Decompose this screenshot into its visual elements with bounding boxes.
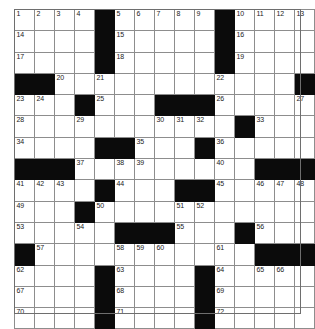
letter-cell[interactable] — [195, 244, 215, 265]
letter-cell[interactable]: 54 — [75, 222, 95, 243]
letter-cell[interactable] — [35, 31, 55, 52]
letter-cell[interactable] — [275, 286, 295, 307]
letter-cell[interactable]: 1 — [15, 10, 35, 31]
letter-cell[interactable] — [35, 286, 55, 307]
letter-cell[interactable]: 22 — [215, 73, 235, 94]
letter-cell[interactable]: 5 — [115, 10, 135, 31]
letter-cell[interactable] — [35, 52, 55, 73]
letter-cell[interactable] — [215, 222, 235, 243]
letter-cell[interactable]: 39 — [135, 159, 155, 180]
letter-cell[interactable]: 37 — [75, 159, 95, 180]
letter-cell[interactable] — [155, 137, 175, 158]
letter-cell[interactable] — [235, 201, 255, 222]
letter-cell[interactable] — [175, 286, 195, 307]
letter-cell[interactable] — [295, 265, 315, 286]
letter-cell[interactable]: 45 — [215, 180, 235, 201]
letter-cell[interactable]: 62 — [15, 265, 35, 286]
letter-cell[interactable]: 70 — [15, 308, 35, 329]
letter-cell[interactable]: 27 — [295, 95, 315, 116]
letter-cell[interactable] — [135, 31, 155, 52]
letter-cell[interactable] — [295, 52, 315, 73]
letter-cell[interactable]: 41 — [15, 180, 35, 201]
letter-cell[interactable] — [175, 31, 195, 52]
letter-cell[interactable]: 49 — [15, 201, 35, 222]
letter-cell[interactable]: 46 — [255, 180, 275, 201]
letter-cell[interactable] — [295, 31, 315, 52]
letter-cell[interactable]: 36 — [215, 137, 235, 158]
letter-cell[interactable]: 51 — [175, 201, 195, 222]
letter-cell[interactable]: 19 — [235, 52, 255, 73]
letter-cell[interactable] — [175, 265, 195, 286]
letter-cell[interactable] — [275, 116, 295, 137]
letter-cell[interactable] — [235, 286, 255, 307]
letter-cell[interactable] — [55, 286, 75, 307]
letter-cell[interactable] — [255, 308, 275, 329]
letter-cell[interactable] — [255, 137, 275, 158]
letter-cell[interactable] — [275, 95, 295, 116]
letter-cell[interactable]: 29 — [75, 116, 95, 137]
letter-cell[interactable] — [115, 73, 135, 94]
letter-cell[interactable] — [255, 31, 275, 52]
letter-cell[interactable] — [175, 244, 195, 265]
letter-cell[interactable] — [75, 286, 95, 307]
letter-cell[interactable] — [75, 137, 95, 158]
letter-cell[interactable] — [275, 31, 295, 52]
crossword-grid[interactable]: 1234567891011121314151617181920212223242… — [14, 9, 315, 329]
letter-cell[interactable] — [115, 95, 135, 116]
letter-cell[interactable] — [195, 159, 215, 180]
letter-cell[interactable]: 47 — [275, 180, 295, 201]
letter-cell[interactable] — [155, 180, 175, 201]
letter-cell[interactable]: 10 — [235, 10, 255, 31]
letter-cell[interactable] — [195, 52, 215, 73]
letter-cell[interactable]: 66 — [275, 265, 295, 286]
letter-cell[interactable] — [295, 137, 315, 158]
letter-cell[interactable] — [295, 286, 315, 307]
letter-cell[interactable] — [75, 73, 95, 94]
letter-cell[interactable]: 35 — [135, 137, 155, 158]
letter-cell[interactable] — [275, 137, 295, 158]
letter-cell[interactable] — [275, 73, 295, 94]
letter-cell[interactable] — [275, 52, 295, 73]
letter-cell[interactable]: 33 — [255, 116, 275, 137]
letter-cell[interactable] — [135, 201, 155, 222]
letter-cell[interactable] — [275, 308, 295, 329]
letter-cell[interactable]: 18 — [115, 52, 135, 73]
letter-cell[interactable] — [255, 52, 275, 73]
letter-cell[interactable]: 21 — [95, 73, 115, 94]
letter-cell[interactable] — [55, 265, 75, 286]
letter-cell[interactable] — [155, 73, 175, 94]
letter-cell[interactable] — [75, 180, 95, 201]
letter-cell[interactable] — [155, 201, 175, 222]
letter-cell[interactable]: 53 — [15, 222, 35, 243]
letter-cell[interactable]: 32 — [195, 116, 215, 137]
letter-cell[interactable] — [35, 201, 55, 222]
letter-cell[interactable] — [235, 265, 255, 286]
letter-cell[interactable] — [295, 308, 315, 329]
letter-cell[interactable] — [135, 116, 155, 137]
letter-cell[interactable]: 31 — [175, 116, 195, 137]
letter-cell[interactable] — [235, 180, 255, 201]
letter-cell[interactable]: 48 — [295, 180, 315, 201]
letter-cell[interactable] — [255, 286, 275, 307]
letter-cell[interactable] — [235, 308, 255, 329]
letter-cell[interactable]: 63 — [115, 265, 135, 286]
letter-cell[interactable]: 69 — [215, 286, 235, 307]
letter-cell[interactable] — [135, 308, 155, 329]
letter-cell[interactable]: 55 — [175, 222, 195, 243]
letter-cell[interactable]: 44 — [115, 180, 135, 201]
letter-cell[interactable] — [155, 308, 175, 329]
letter-cell[interactable]: 28 — [15, 116, 35, 137]
letter-cell[interactable]: 7 — [155, 10, 175, 31]
letter-cell[interactable]: 3 — [55, 10, 75, 31]
letter-cell[interactable] — [55, 201, 75, 222]
letter-cell[interactable] — [175, 137, 195, 158]
letter-cell[interactable]: 65 — [255, 265, 275, 286]
letter-cell[interactable]: 57 — [35, 244, 55, 265]
letter-cell[interactable]: 34 — [15, 137, 35, 158]
letter-cell[interactable] — [55, 308, 75, 329]
letter-cell[interactable] — [35, 265, 55, 286]
letter-cell[interactable]: 64 — [215, 265, 235, 286]
letter-cell[interactable] — [75, 308, 95, 329]
letter-cell[interactable]: 4 — [75, 10, 95, 31]
letter-cell[interactable] — [295, 201, 315, 222]
